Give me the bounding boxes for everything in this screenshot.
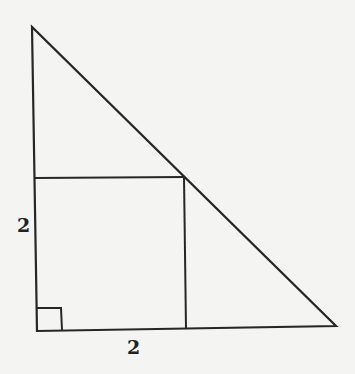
- square-right-edge: [184, 177, 186, 329]
- square-top-edge: [35, 177, 184, 178]
- diagram-canvas: [0, 0, 355, 374]
- right-triangle-diagram: 2 2: [0, 0, 355, 374]
- side-length-label-bottom: 2: [127, 338, 140, 357]
- right-angle-marker: [37, 308, 62, 330]
- side-length-label-left: 2: [17, 216, 30, 235]
